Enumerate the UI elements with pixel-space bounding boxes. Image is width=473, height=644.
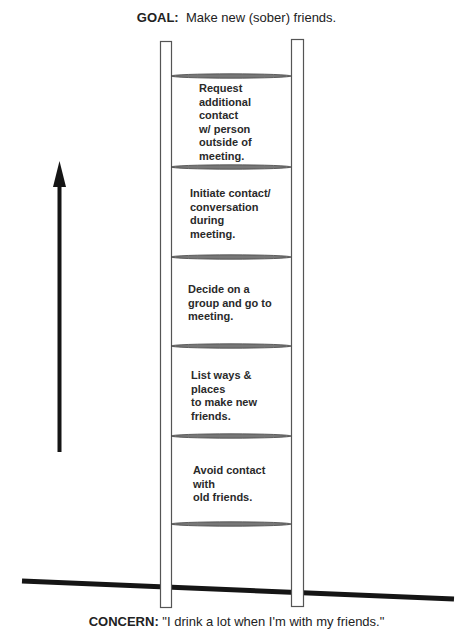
rung-4: [171, 255, 291, 259]
ladder-step-3: Decide on a group and go to meeting.: [188, 283, 272, 324]
concern-label: CONCERN:: [89, 614, 159, 629]
ladder-step-5: Request additional contact w/ person out…: [199, 82, 252, 163]
concern-caption: CONCERN: "I drink a lot when I'm with my…: [0, 614, 473, 629]
ladder-step-4: Initiate contact/ conversation during me…: [190, 187, 271, 241]
ground-line: [22, 581, 454, 599]
rung-3: [171, 344, 291, 348]
rung-6: [171, 74, 291, 78]
ladder-right-rail: [292, 40, 304, 607]
ladder-left-rail: [161, 42, 172, 608]
rung-1: [171, 522, 291, 526]
rung-2: [171, 434, 291, 438]
concern-text: "I drink a lot when I'm with my friends.…: [162, 614, 384, 629]
ladder-step-2: List ways & places to make new friends.: [191, 369, 257, 423]
up-arrow-icon: [53, 161, 66, 452]
rung-5: [171, 165, 291, 169]
ladder-step-1: Avoid contact with old friends.: [193, 464, 265, 505]
